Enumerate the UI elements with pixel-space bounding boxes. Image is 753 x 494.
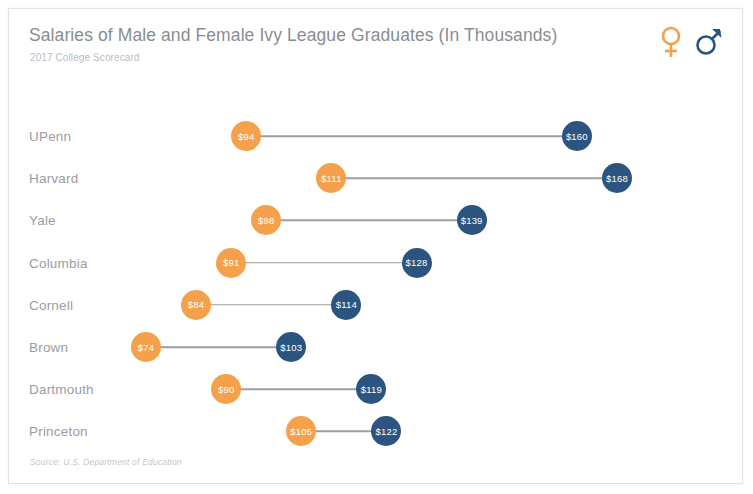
male-data-point[interactable]: $122 [371,416,401,446]
male-data-point[interactable]: $114 [331,290,361,320]
female-data-point[interactable]: $74 [131,332,161,362]
male-data-point[interactable]: $128 [402,248,432,278]
chart-row: Yale$98$139 [9,199,744,241]
chart-row: Brown$74$103 [9,326,744,368]
chart-row: Cornell$84$114 [9,284,744,326]
female-data-point[interactable]: $94 [231,121,261,151]
chart-row: Dartmouth$90$119 [9,368,744,410]
female-data-point[interactable]: $91 [216,248,246,278]
male-data-point[interactable]: $103 [276,332,306,362]
chart-row: Columbia$91$128 [9,242,744,284]
female-data-point[interactable]: $90 [211,374,241,404]
category-label-harvard: Harvard [29,171,78,186]
female-data-point[interactable]: $111 [316,163,346,193]
chart-card: Salaries of Male and Female Ivy League G… [8,8,743,484]
connector-line [196,304,346,306]
connector-line [266,220,471,222]
female-data-point[interactable]: $98 [251,205,281,235]
connector-line [146,346,291,348]
male-data-point[interactable]: $119 [356,374,386,404]
category-label-dartmouth: Dartmouth [29,382,94,397]
source-note: Source: U.S. Department of Education [30,457,182,467]
chart-row: UPenn$94$160 [9,115,744,157]
category-label-princeton: Princeton [29,424,88,439]
connector-line [246,135,577,137]
category-label-columbia: Columbia [29,255,88,270]
category-label-upenn: UPenn [29,129,71,144]
category-label-cornell: Cornell [29,297,73,312]
category-label-brown: Brown [29,340,68,355]
chart-row: Harvard$111$168 [9,157,744,199]
connector-line [226,388,371,390]
male-data-point[interactable]: $168 [602,163,632,193]
female-data-point[interactable]: $84 [181,290,211,320]
connector-line [331,177,617,179]
male-data-point[interactable]: $139 [457,205,487,235]
dumbbell-chart-plot-area: UPenn$94$160Harvard$111$168Yale$98$139Co… [9,9,744,485]
female-data-point[interactable]: $105 [286,416,316,446]
connector-line [231,262,416,264]
chart-row: Princeton$105$122 [9,410,744,452]
male-data-point[interactable]: $160 [562,121,592,151]
category-label-yale: Yale [29,213,56,228]
